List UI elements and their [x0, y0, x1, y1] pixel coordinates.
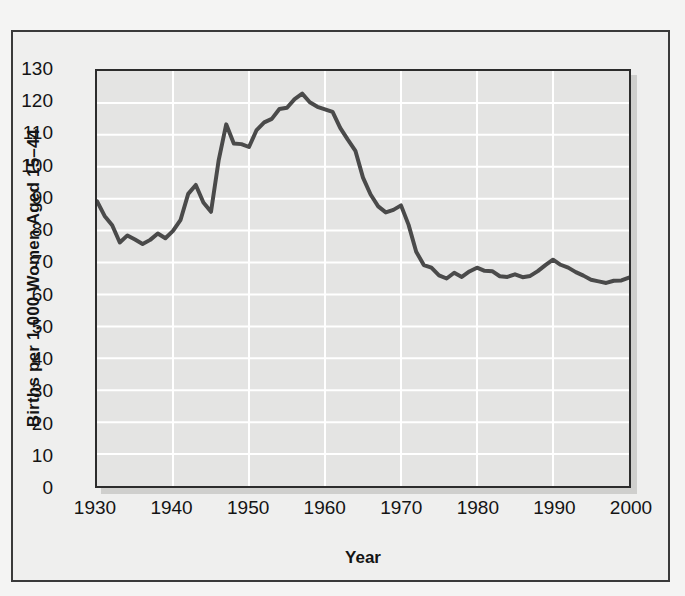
- y-tick-label-30: 30: [0, 381, 53, 400]
- figure: Births per 1,000 Women Aged 15–44 010203…: [0, 0, 685, 596]
- fertility-rate-line: [97, 94, 629, 283]
- y-tick-label-0: 0: [0, 478, 53, 497]
- horizontal-gridlines: [97, 103, 629, 454]
- y-tick-label-130: 130: [0, 59, 53, 78]
- y-tick-label-50: 50: [0, 317, 53, 336]
- x-axis-title: Year: [95, 548, 631, 568]
- y-tick-label-110: 110: [0, 123, 53, 142]
- y-tick-label-80: 80: [0, 220, 53, 239]
- chart-page: Births per 1,000 Women Aged 15–44 010203…: [0, 0, 685, 596]
- y-tick-label-100: 100: [0, 156, 53, 175]
- x-tick-label-2000: 2000: [586, 498, 676, 517]
- y-tick-label-20: 20: [0, 414, 53, 433]
- y-tick-label-70: 70: [0, 252, 53, 271]
- y-tick-label-10: 10: [0, 446, 53, 465]
- plot-svg: [97, 71, 629, 486]
- y-tick-label-60: 60: [0, 285, 53, 304]
- y-tick-label-120: 120: [0, 91, 53, 110]
- plot-area: [95, 69, 631, 488]
- y-tick-label-90: 90: [0, 188, 53, 207]
- y-tick-label-40: 40: [0, 349, 53, 368]
